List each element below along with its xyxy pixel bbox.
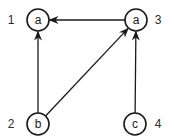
node-label: c [132, 117, 138, 131]
directed-graph-diagram: a1a3b2c4 [0, 0, 174, 138]
edge-4-to-3 [135, 32, 136, 114]
node-3: a3 [125, 9, 162, 31]
node-label: a [133, 13, 140, 27]
node-number-label: 1 [8, 13, 15, 27]
node-number-label: 2 [8, 117, 15, 131]
node-4: c4 [124, 113, 162, 135]
node-label: a [35, 13, 42, 27]
node-label: b [35, 117, 42, 131]
node-1: a1 [8, 9, 49, 31]
node-2: b2 [8, 113, 49, 135]
node-number-label: 3 [155, 13, 162, 27]
nodes-layer: a1a3b2c4 [8, 9, 162, 135]
node-number-label: 4 [155, 117, 162, 131]
edge-2-to-3 [46, 28, 129, 116]
edges-layer [38, 20, 136, 116]
